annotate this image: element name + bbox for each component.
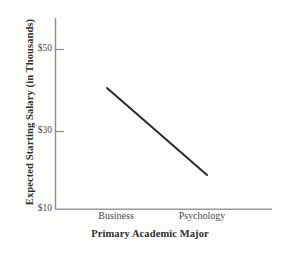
x-tick-label-psychology: Psychology bbox=[163, 210, 241, 221]
data-line-salary bbox=[107, 88, 207, 175]
x-tick-label-business: Business bbox=[80, 210, 152, 221]
x-axis-title: Primary Academic Major bbox=[55, 228, 245, 239]
chart-figure: Expected Starting Salary (in Thousands) … bbox=[0, 0, 283, 256]
